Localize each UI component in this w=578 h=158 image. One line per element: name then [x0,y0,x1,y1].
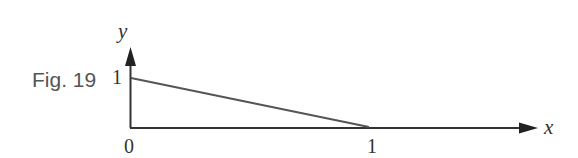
y-axis-label: y [116,19,128,43]
figure-diagram: Fig. 19 y 1 x 0 1 [0,0,578,158]
origin-label: 0 [124,135,134,157]
x-axis-label: x [543,115,554,139]
x-axis [130,123,538,134]
figure-caption: Fig. 19 [32,68,96,91]
y-axis [125,47,136,128]
y-tick-label: 1 [112,66,122,88]
x-axis-arrow-icon [519,123,538,134]
x-tick-label: 1 [367,135,377,157]
line-segment [131,78,369,127]
y-axis-arrow-icon [125,47,136,66]
